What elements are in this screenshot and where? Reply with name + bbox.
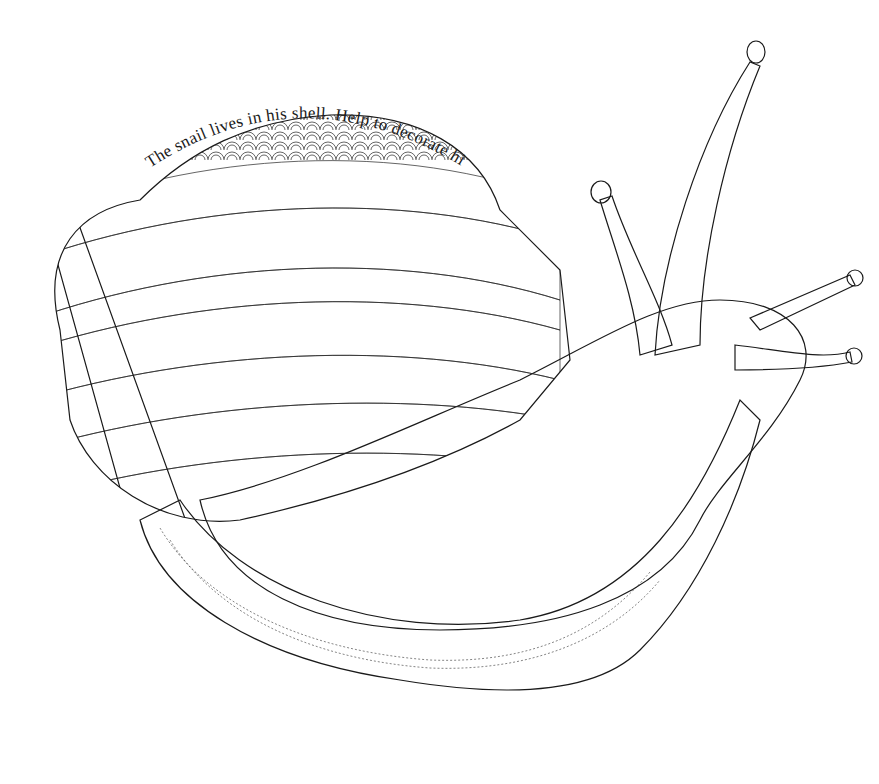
- tentacle-eye: [846, 348, 862, 364]
- tentacle-eye: [847, 270, 863, 286]
- snail-body: [200, 300, 806, 630]
- snail-shell: [30, 100, 600, 560]
- tentacle-eye: [747, 41, 765, 63]
- upper-tentacle-left: [591, 181, 672, 355]
- snail-foot: [140, 400, 760, 690]
- snail-illustration: The snail lives in his shell. Help to de…: [0, 0, 879, 784]
- lower-tentacles: [735, 270, 863, 370]
- coloring-page: The snail lives in his shell. Help to de…: [0, 0, 879, 784]
